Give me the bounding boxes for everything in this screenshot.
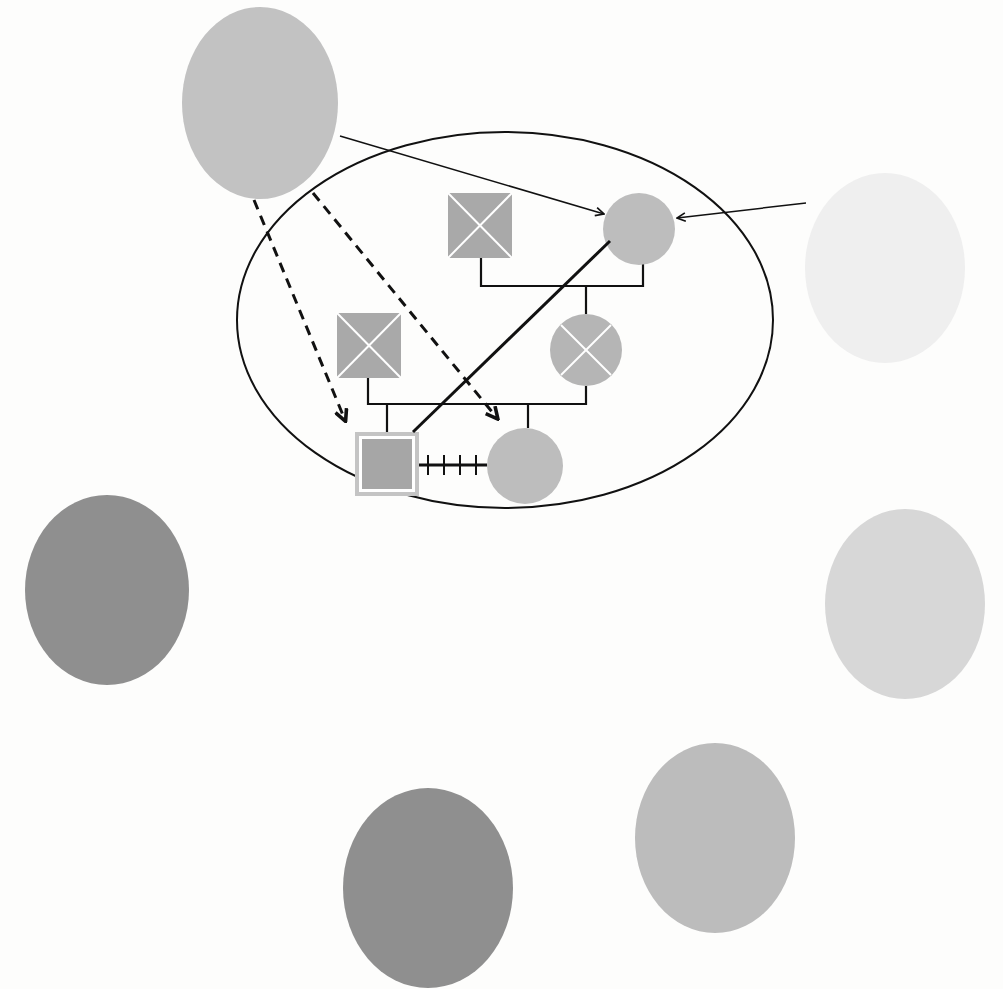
node-job-training[interactable] xyxy=(25,495,189,685)
node-friends[interactable] xyxy=(635,743,795,933)
deceased-father[interactable] xyxy=(337,313,401,378)
deceased-mother[interactable] xyxy=(550,314,622,386)
node-nami[interactable] xyxy=(182,7,338,199)
node-friend[interactable] xyxy=(805,173,965,363)
member-ellen[interactable] xyxy=(603,193,675,265)
node-psych-np[interactable] xyxy=(343,788,513,988)
deceased-grandfather[interactable] xyxy=(448,193,512,258)
tense-tom-karen xyxy=(419,455,487,475)
member-karen[interactable] xyxy=(487,428,563,504)
member-tom[interactable] xyxy=(355,432,419,496)
node-school-rn[interactable] xyxy=(825,509,985,699)
normal-relationships xyxy=(340,136,806,218)
ecomap-diagram xyxy=(0,0,1003,989)
